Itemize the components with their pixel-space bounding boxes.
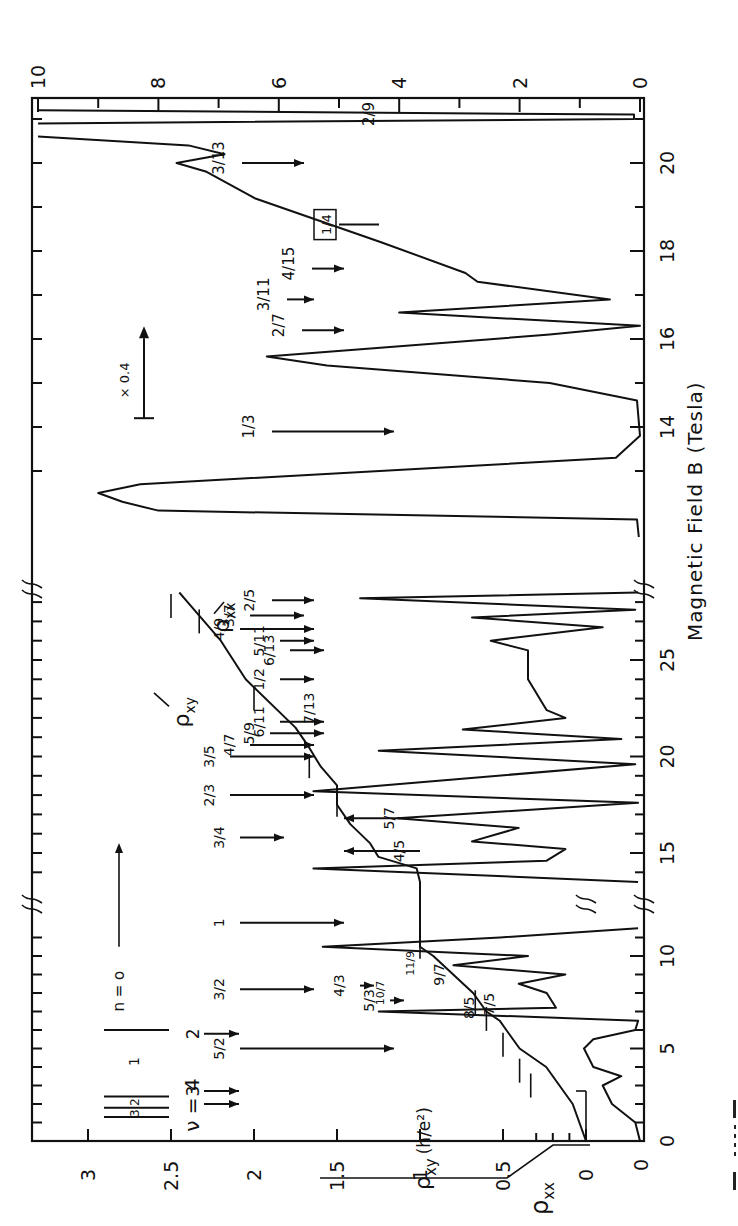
arrowhead-icon: [229, 1030, 239, 1038]
arrowhead-icon: [334, 265, 344, 273]
arrowhead-icon: [384, 427, 394, 435]
rhoxx-tick-label: 6: [268, 77, 290, 89]
rhoxx-tick-label: 0: [629, 77, 651, 89]
fraction-label: 1/3: [240, 414, 258, 438]
rhoxx-low-field-curve: [323, 928, 640, 1141]
axis-break-marks: [22, 580, 654, 913]
arrowhead-icon: [344, 847, 354, 855]
rhoxx-curve-label: ρ: [209, 619, 234, 633]
arrowhead-icon: [394, 996, 404, 1004]
x-tick-label: 18: [656, 239, 678, 263]
rhoxx-axis-leader: [320, 1145, 590, 1178]
x-tick-label: 14: [656, 415, 678, 439]
caption-fragment: [733, 1100, 736, 1190]
rhoxy-tick-label: 0: [575, 1169, 597, 1181]
arrowhead-icon: [304, 637, 314, 645]
fraction-label: 5/9: [241, 722, 257, 745]
rhoxy-tick-label: 2.5: [160, 1161, 182, 1191]
arrowhead-icon: [304, 985, 314, 993]
fraction-label: 7/5: [481, 993, 497, 1016]
rhoxx-left-title: ρxx: [526, 1182, 558, 1215]
fraction-label: 2/5: [241, 589, 257, 612]
rhoxx-tick-label: 2: [509, 77, 531, 89]
rhoxx-2-9-spike: [38, 110, 634, 123]
arrowhead-icon: [274, 834, 284, 842]
landau-level-label: n = o: [110, 971, 128, 1012]
fraction-label: 8/5: [461, 997, 477, 1020]
arrowhead-icon: [294, 612, 304, 620]
rhoxx-zero-label: 0: [630, 1159, 652, 1171]
x-tick-label: 20: [656, 744, 678, 768]
rhoxy-curve-label: ρ: [169, 714, 194, 728]
arrowhead-icon: [304, 791, 314, 799]
spin-level-label: 1: [126, 1057, 142, 1066]
nu-value-label: 3: [183, 1086, 203, 1097]
x-tick-label: 25: [656, 648, 678, 672]
x-tick-label: 0: [656, 1135, 678, 1147]
arrowhead-icon: [304, 596, 314, 604]
fraction-label: 2/9: [360, 102, 378, 126]
fraction-label: 3/13: [210, 141, 228, 175]
scale-annotation: × 0.4: [117, 362, 132, 398]
fraction-label: 3/11: [255, 278, 273, 312]
boxed-fraction-label: 1/4: [319, 214, 334, 235]
arrowhead-icon: [229, 1087, 239, 1095]
arrowhead-icon: [304, 625, 314, 633]
rhoxx-tick-label: 4: [388, 77, 410, 89]
annotations: 1/32/73/114/153/132/91/4× 0.42/53/74/95/…: [104, 102, 497, 1132]
arrowhead-icon: [229, 1100, 239, 1108]
top-axis-ticks: [32, 119, 42, 1123]
x-tick-label: 5: [656, 1042, 678, 1054]
chart-area: 510152025141618200 00.511.522.530 024681…: [0, 65, 707, 1191]
left-axis-label-group: ρxy(h/e²) ρxx: [320, 1107, 590, 1215]
nu-value-label: 2: [183, 1028, 203, 1039]
arrowhead-icon: [384, 1045, 394, 1053]
fraction-label: 1/2: [251, 668, 267, 691]
fraction-label: 4/7: [221, 734, 237, 757]
x-tick-label: 15: [656, 841, 678, 865]
svg-text:xx: xx: [222, 602, 238, 619]
fqhe-figure: 510152025141618200 00.511.522.530 024681…: [0, 0, 738, 1226]
axis-break-icon: [576, 895, 596, 913]
rhoxy-tick-label: 1.5: [326, 1161, 348, 1191]
y-axis-right-ticks: 0246810: [27, 65, 651, 112]
arrowhead-icon: [314, 718, 324, 726]
rhoxx-high-field-curve: [38, 137, 640, 537]
fraction-label: 11/9: [404, 951, 417, 976]
fraction-label: 10/7: [374, 981, 387, 1006]
arrowhead-icon: [304, 295, 314, 303]
spin-level-label: 2: [128, 1098, 142, 1106]
fraction-label: 9/7: [431, 963, 447, 986]
arrowhead-icon: [364, 982, 374, 990]
fraction-label: 3/5: [201, 745, 217, 768]
fraction-label: 4/15: [280, 247, 298, 281]
rhoxy-tick-label: 3: [77, 1169, 99, 1181]
fraction-label: 5/2: [211, 1037, 227, 1060]
x-tick-label: 16: [656, 327, 678, 351]
x-tick-label: 10: [656, 944, 678, 968]
svg-text:xy: xy: [182, 697, 198, 714]
rhoxx-tick-label: 10: [27, 65, 49, 89]
arrowhead-icon: [314, 646, 324, 654]
fraction-label: 3/4: [211, 826, 227, 849]
x-tick-label: 20: [656, 151, 678, 175]
rhoxy-tick-label: 2: [243, 1169, 265, 1181]
arrowhead-icon: [334, 326, 344, 334]
fraction-label: 3/2: [211, 978, 227, 1001]
arrowhead-icon: [314, 729, 324, 737]
fraction-label: 4/3: [331, 974, 347, 997]
arrowhead-icon: [334, 919, 344, 927]
fraction-label: 1: [211, 918, 227, 927]
arrowhead-icon: [294, 159, 304, 167]
x-axis-ticks: 510152025141618200: [630, 119, 678, 1147]
fraction-label: 2/3: [201, 784, 217, 807]
spin-level-label: 3: [128, 1109, 142, 1117]
x-axis-title: Magnetic Field B (Tesla): [683, 382, 707, 642]
fraction-label: 2/7: [270, 313, 288, 337]
arrowhead-icon: [304, 675, 314, 683]
rhoxx-tick-label: 8: [147, 77, 169, 89]
fraction-label: 6/13: [261, 635, 277, 666]
rhoxx-mid-field-curve: [313, 593, 638, 882]
